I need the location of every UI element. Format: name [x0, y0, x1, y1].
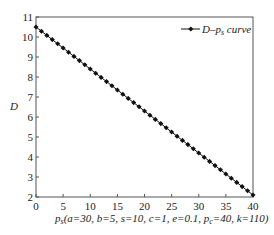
y-tick-label: 10 — [22, 31, 34, 43]
y-tick-label: 5 — [28, 131, 34, 143]
x-tick-label: 40 — [248, 200, 260, 212]
legend: D–ps curve — [181, 23, 251, 37]
y-tick-label: 9 — [28, 51, 34, 63]
y-tick-label: 6 — [28, 111, 34, 123]
y-tick-label: 3 — [28, 171, 34, 183]
y-axis-title: D — [9, 100, 18, 112]
y-tick-label: 7 — [28, 91, 34, 103]
series-d-ps-curve — [33, 24, 255, 197]
d-ps-chart: 234567891011 0510152025303540 D–ps curve… — [0, 0, 274, 235]
x-tick-label: 15 — [112, 200, 124, 212]
y-tick-label: 2 — [28, 191, 34, 203]
x-tick-label: 20 — [139, 200, 151, 212]
x-tick-label: 5 — [60, 200, 66, 212]
y-tick-label: 8 — [28, 71, 34, 83]
x-tick-label: 30 — [193, 200, 205, 212]
x-tick-label: 25 — [166, 200, 178, 212]
x-tick-label: 35 — [220, 200, 232, 212]
x-axis-title: ps(a=30, b=5, s=10, c=1, e=0.1, pc=40, k… — [54, 212, 269, 226]
x-tick-label: 10 — [85, 200, 97, 212]
legend-label: D–ps curve — [201, 23, 251, 37]
x-tick-label: 0 — [33, 200, 39, 212]
y-tick-label: 4 — [28, 151, 34, 163]
y-tick-label: 11 — [22, 11, 33, 23]
legend-marker-icon — [188, 26, 193, 31]
